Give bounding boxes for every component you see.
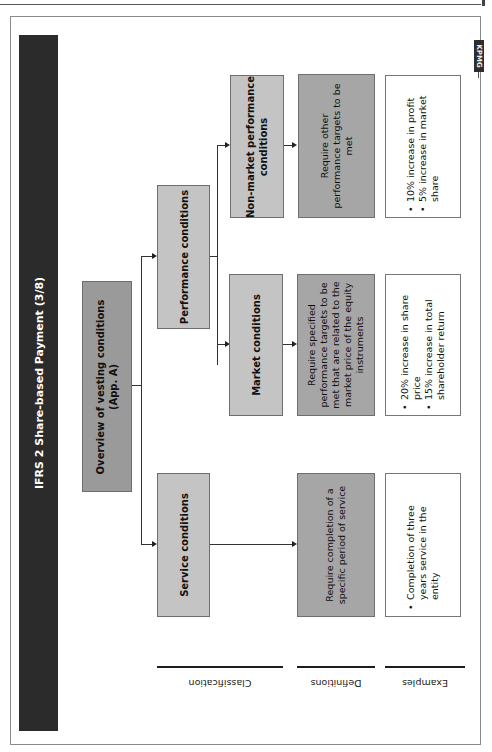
definition-line: performance targets to be — [331, 83, 343, 208]
examples-service-box: Completion of three years service in the… — [385, 473, 461, 617]
non-market-conditions-label: Non-market performance conditions — [244, 75, 270, 217]
root-box-overview: Overview of vesting conditions (App. A) — [82, 281, 132, 492]
definition-line: Require other — [319, 83, 331, 208]
example-item: 20% increase in share price — [399, 280, 423, 400]
performance-conditions-label: Performance conditions — [177, 190, 190, 324]
examples-non-market-list: 10% increase in profit 5% increase in ma… — [405, 82, 441, 212]
root-label-line1: Overview of vesting conditions — [94, 299, 107, 474]
example-item: Completion of three years service in the… — [405, 480, 441, 600]
classification-rule — [157, 666, 283, 668]
examples-service-list: Completion of three years service in the… — [405, 480, 441, 610]
definition-service-box: Require completion of a specific period … — [297, 473, 375, 617]
logo-rule — [478, 72, 479, 78]
kpmg-logo-text: KPMG — [475, 44, 483, 67]
market-conditions-label: Market conditions — [250, 294, 263, 396]
definition-line: market price of the equity — [342, 281, 354, 408]
header-rule — [0, 4, 481, 5]
row-label-classification: Classification — [157, 678, 283, 689]
root-box-label: Overview of vesting conditions (App. A) — [94, 299, 120, 474]
definition-non-market-box: Require other performance targets to be … — [298, 74, 375, 218]
definition-market-text: Require specified performance targets to… — [306, 281, 366, 408]
examples-rule — [385, 666, 465, 668]
definition-line: specific period of service — [336, 486, 348, 604]
examples-market-box: 20% increase in share price 15% increase… — [385, 274, 461, 416]
connector-root-vertical — [141, 256, 142, 545]
examples-non-market-box: 10% increase in profit 5% increase in ma… — [385, 75, 461, 218]
performance-conditions-box: Performance conditions — [157, 185, 210, 329]
definition-line: Require specified — [306, 281, 318, 408]
header-tick — [482, 0, 485, 6]
arrow-icon — [292, 142, 297, 148]
service-conditions-box: Service conditions — [157, 473, 210, 617]
definition-line: performance targets to be — [318, 281, 330, 408]
definition-line: instruments — [354, 281, 366, 408]
examples-market-list: 20% increase in share price 15% increase… — [399, 280, 447, 410]
definition-service-text: Require completion of a specific period … — [324, 486, 348, 604]
definition-line: Require completion of a — [324, 486, 336, 604]
example-item: 10% increase in profit — [405, 82, 417, 202]
connector-service-def — [210, 544, 293, 545]
kpmg-logo: KPMG — [474, 40, 484, 72]
page-title: IFRS 2 Share-based Payment (3/8) — [32, 277, 45, 489]
page-title-bar: IFRS 2 Share-based Payment (3/8) — [19, 35, 58, 731]
row-label-examples: Examples — [385, 678, 465, 689]
root-label-line2: (App. A) — [107, 299, 120, 474]
non-market-label-line1: Non-market performance — [244, 75, 257, 217]
row-label-definitions: Definitions — [297, 678, 375, 689]
service-conditions-label: Service conditions — [177, 493, 190, 597]
definition-line: met — [343, 83, 355, 208]
definitions-rule — [297, 666, 375, 668]
connector-performance-vertical — [217, 145, 218, 365]
definition-non-market-text: Require other performance targets to be … — [319, 83, 355, 208]
definition-line: met that are related to the — [330, 281, 342, 408]
definition-market-box: Require specified performance targets to… — [297, 274, 375, 416]
market-conditions-box: Market conditions — [229, 274, 283, 416]
non-market-label-line2: conditions — [257, 75, 270, 217]
example-item: 5% increase in market share — [417, 82, 441, 202]
example-item: 15% increase in total shareholder return — [423, 280, 447, 400]
non-market-conditions-box: Non-market performance conditions — [230, 75, 284, 218]
